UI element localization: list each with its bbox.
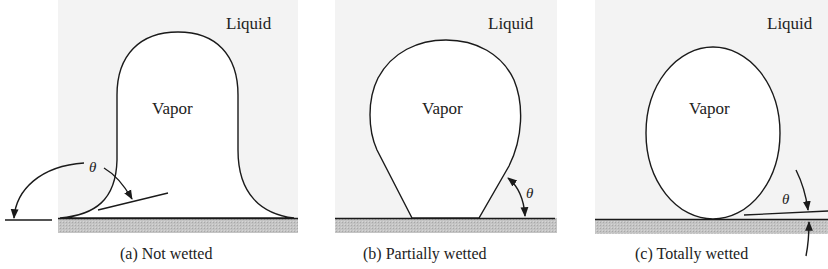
panel-not-wetted: θ Liquid Vapor (a) Not wetted <box>5 0 298 263</box>
liquid-label: Liquid <box>226 14 272 33</box>
theta-label: θ <box>526 185 534 201</box>
caption: (a) Not wetted <box>120 245 212 263</box>
caption: (c) Totally wetted <box>635 245 748 263</box>
wetting-diagram: θ Liquid Vapor (a) Not wetted θ Liquid V… <box>0 0 828 269</box>
liquid-label: Liquid <box>488 14 534 33</box>
vapor-label: Vapor <box>689 99 730 118</box>
vapor-bubble <box>646 47 780 219</box>
panel-totally-wetted: θ Liquid Vapor (c) Totally wetted <box>595 0 828 263</box>
caption: (b) Partially wetted <box>363 245 487 263</box>
theta-label: θ <box>89 159 97 175</box>
substrate <box>58 218 298 233</box>
theta-label: θ <box>782 191 790 207</box>
substrate <box>335 218 557 233</box>
liquid-label: Liquid <box>767 14 813 33</box>
panel-partially-wetted: θ Liquid Vapor (b) Partially wetted <box>335 0 557 263</box>
substrate <box>595 219 828 234</box>
vapor-label: Vapor <box>152 99 193 118</box>
vapor-label: Vapor <box>422 99 463 118</box>
